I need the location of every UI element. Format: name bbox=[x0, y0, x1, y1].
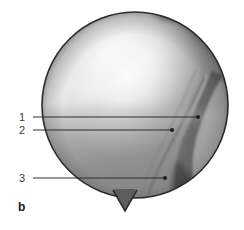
annotation-label-1: 1 bbox=[19, 111, 25, 123]
leader-endpoint-dot-3 bbox=[163, 176, 167, 180]
figure-panel-b: 1 2 3 b bbox=[0, 0, 244, 230]
annotation-label-2: 2 bbox=[19, 124, 25, 136]
figure-canvas: 1 2 3 b bbox=[0, 0, 244, 230]
leader-endpoint-dot-2 bbox=[170, 128, 174, 132]
annotation-label-3: 3 bbox=[19, 172, 25, 184]
leader-endpoint-dot-1 bbox=[196, 115, 200, 119]
endoscopic-field-of-view bbox=[40, 10, 230, 214]
bottom-notch-fill bbox=[114, 189, 136, 211]
panel-letter: b bbox=[18, 200, 25, 214]
